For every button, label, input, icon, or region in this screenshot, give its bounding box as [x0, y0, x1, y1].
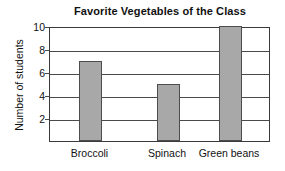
- bar: [79, 61, 102, 142]
- y-axis-tick-label: 10: [28, 22, 45, 32]
- y-axis-tick-labels: 246810: [26, 27, 45, 142]
- plot-area: [49, 27, 270, 142]
- y-axis-tick-mark: [45, 27, 49, 28]
- y-axis-tick-mark: [45, 73, 49, 74]
- x-axis-category-label: Green beans: [199, 147, 260, 159]
- y-axis-title: Number of students: [13, 39, 25, 131]
- bar: [219, 26, 242, 141]
- bar-chart: Favorite Vegetables of the Class Number …: [0, 0, 285, 171]
- bar: [157, 84, 180, 142]
- y-axis-title-container: Number of students: [11, 27, 27, 142]
- y-axis-tick-mark: [45, 96, 49, 97]
- y-axis-tick-label: 6: [28, 68, 45, 78]
- y-axis-tick-label: 2: [28, 114, 45, 124]
- x-axis-category-label: Spinach: [148, 147, 186, 159]
- y-axis-tick-label: 4: [28, 91, 45, 101]
- x-axis-category-label: Broccoli: [71, 147, 108, 159]
- y-axis-tick-label: 8: [28, 45, 45, 55]
- chart-title: Favorite Vegetables of the Class: [49, 5, 271, 17]
- y-axis-tick-mark: [45, 50, 49, 51]
- y-axis-tick-mark: [45, 119, 49, 120]
